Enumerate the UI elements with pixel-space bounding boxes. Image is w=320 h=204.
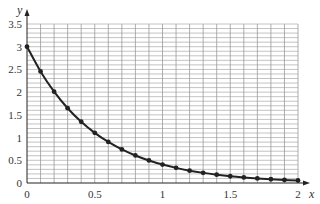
x-axis-arrow-icon — [303, 181, 310, 186]
data-point-marker — [174, 165, 179, 170]
x-tick-label: 1.5 — [223, 188, 237, 200]
data-point-marker — [282, 178, 287, 183]
data-point-marker — [255, 176, 260, 181]
y-axis-label: y — [16, 3, 23, 17]
x-tick-label: 0.5 — [88, 188, 102, 200]
grid — [27, 24, 298, 183]
x-tick-label: 1 — [160, 188, 166, 200]
data-point-marker — [160, 162, 165, 167]
data-point-marker — [25, 44, 30, 49]
x-tick-label: 0 — [24, 188, 30, 200]
data-point-marker — [228, 174, 233, 179]
y-tick-label: 3 — [17, 41, 23, 53]
y-tick-label: 1.5 — [8, 109, 22, 121]
data-point-marker — [147, 158, 152, 163]
data-point-marker — [201, 170, 206, 175]
y-axis-arrow-icon — [25, 9, 30, 16]
y-tick-label: 0 — [17, 177, 23, 189]
data-point-marker — [65, 106, 70, 111]
exponential-decay-chart: 00.511.5200.511.522.533.5 x y — [0, 0, 320, 204]
y-tick-label: 2 — [17, 86, 23, 98]
x-tick-label: 2 — [295, 188, 301, 200]
data-point-marker — [79, 119, 84, 124]
data-point-marker — [106, 140, 111, 145]
data-point-marker — [214, 172, 219, 177]
data-point-marker — [296, 178, 301, 183]
chart-canvas: 00.511.5200.511.522.533.5 x y — [0, 0, 320, 204]
data-point-marker — [92, 130, 97, 135]
data-point-marker — [133, 153, 138, 158]
y-tick-label: 3.5 — [8, 18, 22, 30]
data-point-marker — [52, 89, 57, 94]
x-axis-label: x — [308, 187, 315, 201]
data-point-marker — [187, 168, 192, 173]
data-point-marker — [241, 175, 246, 180]
data-point-marker — [269, 177, 274, 182]
y-tick-label: 1 — [17, 132, 23, 144]
y-tick-label: 0.5 — [8, 154, 22, 166]
data-point-marker — [38, 69, 43, 74]
tick-labels: 00.511.5200.511.522.533.5 — [8, 18, 301, 200]
data-point-marker — [119, 147, 124, 152]
y-tick-label: 2.5 — [8, 63, 22, 75]
